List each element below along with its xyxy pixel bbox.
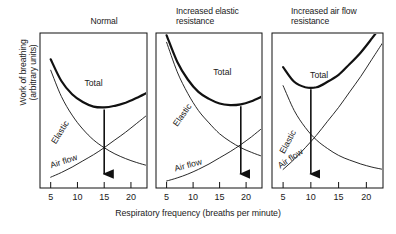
x-tick-label: 10	[72, 192, 82, 202]
panel-2: 5101520TotalElasticAir flow	[156, 33, 262, 202]
total-curve-label: Total	[310, 70, 328, 80]
panel-1: 5101520TotalElasticAir flow	[40, 33, 147, 202]
x-tick-label: 20	[361, 192, 371, 202]
x-tick-label: 5	[48, 192, 53, 202]
elastic-curve-label: Elastic	[171, 101, 194, 128]
x-tick-label: 10	[188, 192, 198, 202]
figure-canvas: 5101520TotalElasticAir flow5101520TotalE…	[0, 0, 396, 234]
total-curve-label: Total	[84, 78, 102, 88]
total-curve-label: Total	[213, 67, 231, 77]
x-tick-label: 15	[334, 192, 344, 202]
work-of-breathing-figure: Work of breathing (arbitrary units) Norm…	[0, 0, 396, 234]
x-tick-label: 20	[241, 192, 251, 202]
x-tick-label: 15	[215, 192, 225, 202]
x-tick-label: 10	[306, 192, 316, 202]
x-tick-label: 5	[281, 192, 286, 202]
panel-3: 5101520TotalElasticAir flow	[272, 24, 383, 202]
elastic-curve-label: Elastic	[49, 118, 71, 145]
x-tick-label: 20	[126, 192, 136, 202]
x-tick-label: 5	[164, 192, 169, 202]
air-flow-curve-label: Air flow	[173, 156, 204, 173]
x-tick-label: 15	[99, 192, 109, 202]
air-flow-curve-label: Air flow	[49, 152, 80, 170]
air-flow-work-curve	[167, 128, 262, 181]
